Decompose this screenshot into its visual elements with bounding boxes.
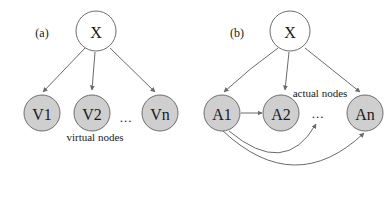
panel-a: (a) X V1 V2 Vn ... virtual nodes (24, 11, 178, 143)
edge-x-to-an (305, 48, 360, 92)
edge-x-to-v2 (92, 52, 95, 90)
figure-container: (a) X V1 V2 Vn ... virtual nodes (b) (0, 0, 392, 201)
edge-x-to-vn (110, 48, 155, 92)
panel-a-ellipsis: ... (120, 110, 133, 125)
panel-b-label: (b) (230, 26, 244, 40)
node-an-label: An (355, 106, 375, 123)
panel-b: (b) X A1 A2 An ... actual nodes (204, 11, 383, 165)
panel-b-caption: actual nodes (293, 87, 348, 99)
node-a2-label: A2 (271, 106, 291, 123)
node-v1-label: V1 (32, 106, 52, 123)
root-node-x-b-label: X (284, 24, 296, 41)
node-a1-label: A1 (212, 106, 232, 123)
node-v2-label: V2 (82, 106, 102, 123)
panel-a-caption: virtual nodes (66, 131, 123, 143)
panel-b-ellipsis: ... (312, 106, 325, 121)
node-vn-label: Vn (150, 106, 170, 123)
edge-x-to-v1 (43, 48, 85, 92)
edge-x-to-a1 (224, 48, 278, 92)
edge-x-to-a2 (285, 52, 289, 90)
root-node-x-a-label: X (90, 24, 102, 41)
panel-a-label: (a) (35, 26, 48, 40)
